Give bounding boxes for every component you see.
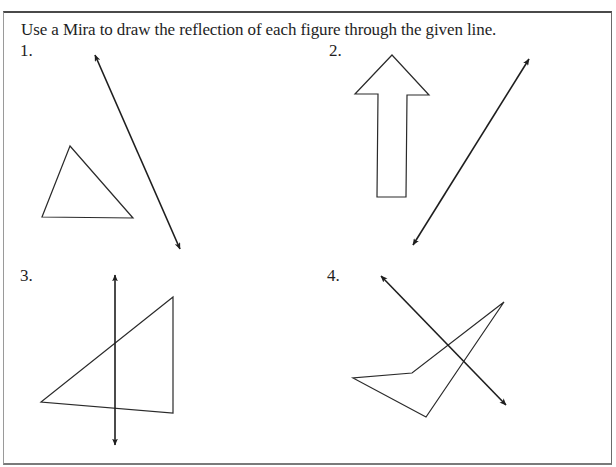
problem-2-arrow-shape: [355, 55, 429, 197]
problem-1-reflection-line: [95, 55, 180, 249]
problem-3-figure-group: [41, 275, 173, 445]
problem-2-reflection-line: [413, 59, 529, 245]
problem-2-figure-group: [355, 55, 529, 245]
problem-3-triangle: [41, 297, 173, 413]
problem-1-figure-group: [42, 55, 180, 249]
problem-4-figure-group: [353, 276, 506, 417]
problem-4-reflection-line: [381, 276, 506, 405]
problem-1-triangle: [42, 146, 133, 218]
figures-canvas: [0, 0, 616, 467]
problem-4-quadrilateral: [353, 302, 504, 417]
